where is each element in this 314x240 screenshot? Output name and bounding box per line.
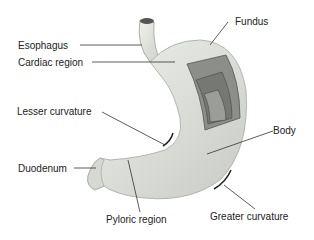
label-lesser-curvature: Lesser curvature bbox=[17, 106, 91, 118]
label-greater-curvature: Greater curvature bbox=[210, 211, 288, 223]
stomach-diagram: Esophagus Cardiac region Fundus Lesser c… bbox=[0, 0, 314, 240]
label-body: Body bbox=[273, 125, 296, 137]
label-fundus: Fundus bbox=[235, 16, 268, 28]
label-cardiac-region: Cardiac region bbox=[18, 57, 83, 69]
label-duodenum: Duodenum bbox=[18, 163, 67, 175]
label-pyloric-region: Pyloric region bbox=[106, 214, 167, 226]
label-esophagus: Esophagus bbox=[18, 40, 68, 52]
stomach-illustration bbox=[0, 0, 314, 240]
